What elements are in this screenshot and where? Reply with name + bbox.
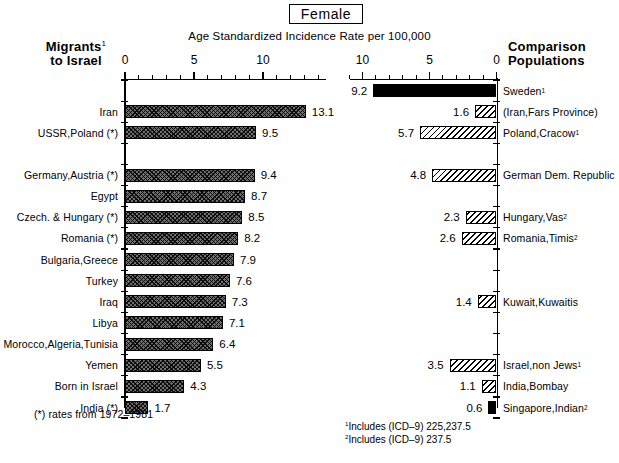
left-bar-value: 8.7 <box>251 186 295 207</box>
left-bar-value: 8.2 <box>244 228 288 249</box>
left-category-label: Bulgaria,Greece <box>0 249 118 270</box>
left-bar-value: 5.5 <box>207 355 251 376</box>
right-axis-tick <box>416 75 417 79</box>
left-bar-value: 7.1 <box>229 312 273 333</box>
left-axis-tick <box>180 75 181 79</box>
left-bar-value: 4.3 <box>190 376 234 397</box>
right-category-label: German Dem. Republic <box>503 165 619 186</box>
category-text: Iraq <box>100 296 119 308</box>
category-text: Romania,Timis <box>503 232 574 244</box>
category-text: Singapore,Indian <box>503 402 584 414</box>
right-bar <box>432 169 496 182</box>
left-row-tick <box>121 333 128 334</box>
right-row-tick <box>493 291 500 292</box>
left-category-label: Germany,Austria (*) <box>0 165 118 186</box>
category-text: Born in Israel <box>55 380 118 392</box>
left-bar <box>125 232 238 245</box>
left-panel-heading-superscript: 1 <box>102 39 107 48</box>
left-axis-tick <box>290 75 291 79</box>
right-category-label: India,Bombay <box>503 376 619 397</box>
left-axis-tick <box>152 75 153 79</box>
category-text: Poland,Cracow <box>503 127 576 139</box>
right-bar <box>475 105 496 118</box>
right-panel-heading: Comparison Populations <box>508 40 616 68</box>
right-row-tick <box>493 164 500 165</box>
right-bar <box>488 401 496 414</box>
left-bar-value: 9.5 <box>262 122 306 143</box>
left-bar <box>125 211 242 224</box>
left-axis-tick-label: 0 <box>110 53 140 67</box>
right-vertical-axis <box>497 78 499 408</box>
asterisk-note: (*) rates from 1972–1981 <box>34 408 153 420</box>
right-axis-tick <box>429 72 430 79</box>
right-axis-tick <box>375 75 376 79</box>
right-row-tick <box>493 248 500 249</box>
left-row-tick <box>121 270 128 271</box>
right-panel-heading-line2: Populations <box>508 53 585 68</box>
right-row-tick <box>493 333 500 334</box>
left-bar <box>125 169 255 182</box>
category-text: Egypt <box>91 190 118 202</box>
left-row-tick <box>121 101 128 102</box>
right-category-label: Hungary,Vas2 <box>503 207 619 228</box>
left-row-tick <box>121 122 128 123</box>
left-row-tick <box>121 354 128 355</box>
right-row-tick <box>493 79 500 80</box>
left-bar <box>125 295 226 308</box>
right-axis-tick <box>402 75 403 79</box>
right-axis-tick-label: 0 <box>482 53 512 67</box>
left-panel-heading-line1: Migrants <box>46 39 102 54</box>
left-category-label: Libya <box>0 312 118 333</box>
right-panel-heading-line1: Comparison <box>508 39 586 54</box>
right-bar-value: 1.6 <box>425 101 469 122</box>
right-row-tick <box>493 122 500 123</box>
left-bar <box>125 359 201 372</box>
left-bar-value: 6.4 <box>219 334 263 355</box>
left-axis-tick <box>318 75 319 79</box>
category-text: Hungary,Vas <box>503 211 563 223</box>
category-text: Yemen <box>85 359 118 371</box>
left-row-tick <box>121 79 128 80</box>
right-category-label: Romania,Timis2 <box>503 228 619 249</box>
category-text: Czech. & Hungary (*) <box>17 211 118 223</box>
category-text: Turkey <box>86 275 118 287</box>
left-category-label: USSR,Poland (*) <box>0 122 118 143</box>
left-row-tick <box>121 248 128 249</box>
right-bar-value: 2.6 <box>412 228 456 249</box>
right-row-tick <box>493 270 500 271</box>
chart-title: Female <box>301 6 351 22</box>
category-text: German Dem. Republic <box>503 169 615 181</box>
left-bar-value: 9.4 <box>261 165 305 186</box>
left-axis-tick <box>207 75 208 79</box>
right-axis-tick <box>389 75 390 79</box>
footnote-2: 2Includes (ICD–9) 237.5 <box>345 433 471 446</box>
left-bar <box>125 316 223 329</box>
right-bar <box>373 84 496 97</box>
right-bar-value: 0.6 <box>438 397 482 418</box>
left-axis-tick <box>235 75 236 79</box>
footnote-1: 1Includes (ICD–9) 225,237.5 <box>345 420 471 433</box>
left-axis-tick-label: 5 <box>179 53 209 67</box>
category-text: (Iran,Fars Province) <box>503 106 598 118</box>
left-bar <box>125 105 306 118</box>
right-axis-tick-label: 5 <box>415 53 445 67</box>
right-axis-tick <box>349 75 350 79</box>
left-axis-tick <box>262 72 263 79</box>
left-row-tick <box>121 312 128 313</box>
category-text: Sweden <box>503 85 542 97</box>
category-text: Morocco,Algeria,Tunisia <box>3 338 118 350</box>
left-axis-tick-label: 10 <box>248 53 278 67</box>
left-bar <box>125 190 245 203</box>
left-row-tick <box>121 206 128 207</box>
chart-title-box: Female <box>289 4 363 24</box>
left-row-tick <box>121 375 128 376</box>
right-axis-line <box>350 79 498 81</box>
footnote-2-text: Includes (ICD–9) 237.5 <box>348 434 451 445</box>
right-bar-value: 2.3 <box>416 207 460 228</box>
left-axis-tick <box>276 75 277 79</box>
category-text: USSR,Poland (*) <box>38 127 118 139</box>
left-category-label: Morocco,Algeria,Tunisia <box>0 334 118 355</box>
right-row-tick <box>493 227 500 228</box>
left-bar <box>125 126 256 139</box>
right-axis-tick <box>456 75 457 79</box>
